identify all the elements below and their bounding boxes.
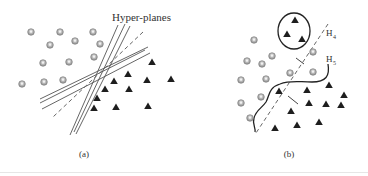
triangle-point (275, 88, 283, 95)
circle-point-center (68, 61, 70, 63)
hyper-plane-line (74, 24, 125, 132)
circle-point-center (92, 31, 94, 33)
circle-point-center (49, 44, 51, 46)
circle-point-center (265, 78, 267, 80)
triangle-point (337, 102, 345, 109)
circle-point-center (59, 31, 61, 33)
circle-point-center (30, 31, 32, 33)
svg-text:4: 4 (333, 34, 336, 40)
margin-arrow-upper (296, 58, 304, 64)
circle-point-center (93, 56, 95, 58)
class-circle-points (19, 29, 104, 88)
circle-point-center (253, 39, 255, 41)
circle-point-center (289, 72, 291, 74)
class-triangle-points (90, 59, 175, 112)
circle-point-center (249, 117, 251, 119)
triangle-point (291, 17, 299, 24)
circle-point-center (99, 43, 101, 45)
triangle-point (110, 78, 118, 85)
triangle-point (303, 87, 311, 94)
triangle-point (124, 71, 132, 78)
triangle-point (271, 125, 279, 132)
circle-point-center (21, 83, 23, 85)
cluster-triangle-points (283, 17, 306, 43)
triangle-point (112, 104, 120, 111)
class-triangle-points (271, 82, 348, 132)
circle-point-center (312, 71, 314, 73)
circle-point-center (271, 55, 273, 57)
triangle-point (90, 105, 98, 112)
hyperplane-figure: Hyper-planes (a) H 4 H 5 (b) (0, 0, 368, 176)
triangle-point (298, 36, 306, 43)
panel-b: H 4 H 5 (b) (238, 13, 348, 159)
circle-point-center (43, 81, 45, 83)
triangle-point (293, 122, 301, 129)
h4-label: H 4 (326, 28, 336, 40)
bottom-divider (0, 172, 368, 173)
circle-point-center (74, 40, 76, 42)
circle-point-center (240, 102, 242, 104)
hyper-plane-lines (40, 24, 150, 135)
triangle-point (305, 100, 313, 107)
circle-point-center (42, 62, 44, 64)
svg-text:5: 5 (333, 60, 336, 66)
triangle-point (325, 82, 333, 89)
class-circle-points (238, 37, 317, 122)
panel-a: Hyper-planes (a) (19, 11, 175, 159)
triangle-point (167, 76, 175, 83)
caption-a: (a) (79, 149, 89, 159)
triangle-point (148, 59, 156, 66)
triangle-point (340, 92, 348, 99)
triangle-point (101, 86, 109, 93)
svg-text:H: H (326, 54, 333, 64)
triangle-point (315, 119, 323, 126)
triangle-point (144, 103, 152, 110)
margin-arrow-lower (288, 96, 298, 104)
circle-point-center (240, 79, 242, 81)
circle-point-center (261, 63, 263, 65)
circle-point-center (246, 60, 248, 62)
triangle-point (143, 77, 151, 84)
svg-text:H: H (326, 28, 333, 38)
hyper-planes-label: Hyper-planes (112, 11, 171, 23)
triangle-point (287, 108, 295, 115)
triangle-point (125, 86, 133, 93)
circle-point-center (260, 96, 262, 98)
circle-point-center (312, 51, 314, 53)
circle-point-center (62, 79, 64, 81)
triangle-point (322, 101, 330, 108)
triangle-point (283, 31, 291, 38)
caption-b: (b) (284, 149, 295, 159)
